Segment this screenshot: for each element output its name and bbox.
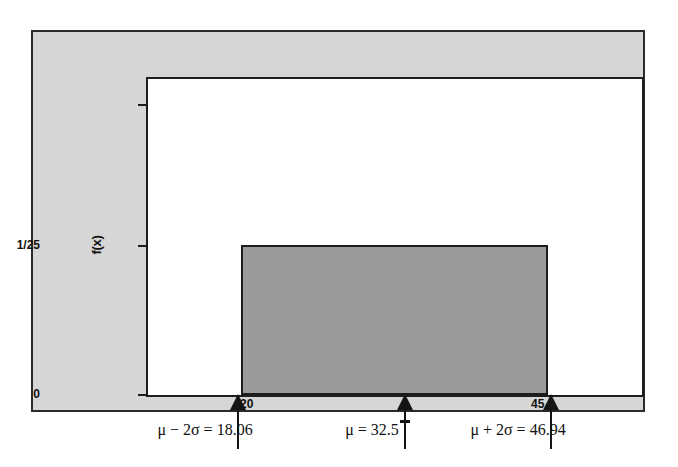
arrow-head-up-icon [397, 394, 413, 410]
caption-mu-plus-2sigma: μ + 2σ = 46.94 [470, 421, 565, 439]
uniform-density-region [241, 245, 548, 395]
arrow-head-up-icon [543, 394, 559, 410]
figure-panel: 1/25 0 f(x) 20 45 [31, 30, 645, 412]
arrow-shaft [404, 407, 406, 449]
mean-cross-tick-icon [400, 420, 410, 423]
y-axis-tick-origin [138, 394, 147, 396]
y-axis-label-origin: 0 [0, 388, 40, 400]
caption-mu: μ = 32.5 [345, 421, 399, 439]
y-axis-title: f(x) [80, 225, 114, 265]
y-axis-tick-density [138, 245, 147, 247]
y-axis-line [146, 77, 148, 397]
caption-mu-minus-2sigma: μ − 2σ = 18.06 [157, 421, 252, 439]
y-axis-tick-top [138, 104, 147, 106]
y-axis-label-density: 1/25 [0, 239, 40, 251]
arrow-head-up-icon [230, 394, 246, 410]
